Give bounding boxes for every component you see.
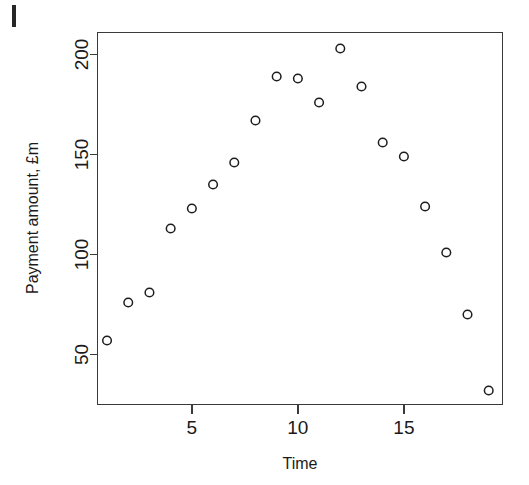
data-point <box>400 152 409 161</box>
y-axis-tick-group <box>90 55 98 355</box>
plot-frame-box <box>98 33 503 405</box>
data-point <box>230 158 239 167</box>
data-point <box>336 44 345 53</box>
data-point <box>442 248 451 257</box>
data-point <box>421 202 430 211</box>
x-tick-label: 15 <box>393 417 414 438</box>
y-tick-label: 50 <box>71 344 92 365</box>
data-point <box>272 72 281 81</box>
x-axis-title: Time <box>283 455 318 472</box>
data-point <box>357 82 366 91</box>
x-tick-label: 5 <box>187 417 198 438</box>
y-tick-label: 100 <box>71 239 92 271</box>
data-point <box>484 386 493 395</box>
data-point <box>145 288 154 297</box>
data-point <box>166 224 175 233</box>
data-point <box>378 138 387 147</box>
x-tick-label: 10 <box>287 417 308 438</box>
y-tick-label: 200 <box>71 39 92 71</box>
data-point <box>251 116 260 125</box>
data-point-series <box>103 44 493 395</box>
scatter-plot-figure: 50100150200 51015 Time Payment amount, £… <box>0 0 529 485</box>
data-point <box>463 310 472 319</box>
y-tick-label: 150 <box>71 139 92 171</box>
data-point <box>209 180 218 189</box>
data-point <box>188 204 197 213</box>
x-axis-tick-group <box>192 405 404 414</box>
data-point <box>294 74 303 83</box>
y-axis-title: Payment amount, £m <box>24 142 41 294</box>
x-axis-tick-labels: 51015 <box>187 417 415 438</box>
plot-canvas: 50100150200 51015 Time Payment amount, £… <box>0 0 529 485</box>
data-point <box>124 298 133 307</box>
data-point <box>315 98 324 107</box>
data-point <box>103 336 112 345</box>
y-axis-tick-labels: 50100150200 <box>71 39 92 365</box>
